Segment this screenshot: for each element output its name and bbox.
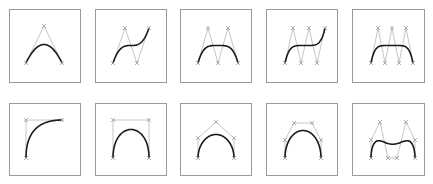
panel-frame xyxy=(96,104,167,176)
bezier-panel-r1c3 xyxy=(181,10,252,83)
panel-frame xyxy=(181,104,252,176)
panel-frame xyxy=(10,10,81,83)
bezier-panel-r1c1 xyxy=(10,10,81,83)
bezier-panel-r1c2 xyxy=(96,10,167,83)
bezier-panel-r1c5 xyxy=(353,10,425,83)
bezier-panel-r2c5 xyxy=(353,104,425,176)
bezier-curve-grid xyxy=(0,0,433,184)
panel-frame xyxy=(10,104,81,176)
bezier-panel-r2c2 xyxy=(96,104,167,176)
bezier-panel-r1c4 xyxy=(267,10,338,83)
panel-frame xyxy=(267,104,338,176)
bezier-panel-r2c4 xyxy=(267,104,338,176)
bezier-panel-r2c1 xyxy=(10,104,81,176)
bezier-panel-r2c3 xyxy=(181,104,252,176)
panel-frame xyxy=(353,104,425,176)
